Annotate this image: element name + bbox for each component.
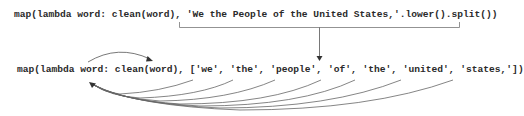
arc-arrow-icon bbox=[88, 52, 153, 62]
bracket-icon bbox=[180, 22, 460, 28]
curved-arrowhead-icon bbox=[89, 82, 96, 88]
down-arrow-icon bbox=[317, 28, 323, 62]
curved-arrows-icon bbox=[94, 80, 453, 110]
